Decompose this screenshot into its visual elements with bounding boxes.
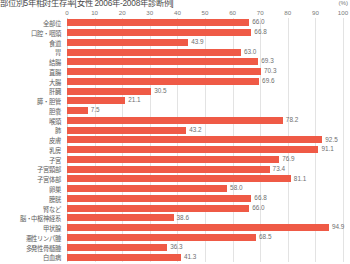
bar	[67, 68, 261, 75]
category-label: 肝臓	[49, 87, 61, 96]
x-tick-label-50: 50	[202, 9, 209, 16]
bar-row: 白血病41.3	[67, 252, 343, 262]
bar-row: 直腸70.3	[67, 67, 343, 77]
bar-row: 腎など66.0	[67, 203, 343, 213]
bar-row: 子宮頸部73.4	[67, 164, 343, 174]
bar-value-label: 92.5	[325, 136, 337, 143]
bar-value-label: 81.1	[294, 175, 306, 182]
x-tick-label-100: 100	[338, 9, 348, 16]
bar-row: 脳・中枢神経系38.6	[67, 213, 343, 223]
bar-value-label: 7.5	[91, 106, 100, 113]
category-label: 結腸	[49, 58, 61, 67]
bar	[67, 107, 88, 114]
category-label: 多発性骨髄腫	[26, 244, 61, 253]
category-label: 口腔・咽頭	[31, 29, 61, 38]
bar-value-label: 66.8	[254, 28, 266, 35]
bar-row: 肺43.2	[67, 125, 343, 135]
bar	[67, 88, 151, 95]
bar-row: 口腔・咽頭66.8	[67, 28, 343, 38]
bar-value-label: 70.3	[264, 67, 276, 74]
survival-rate-bar-chart: 部位別5年相対生存率[女性 2006年-2008年診断例] (%) 010203…	[0, 0, 350, 264]
category-label: 膀胱	[49, 195, 61, 204]
category-label: 大腸	[49, 78, 61, 87]
bar-row: 胆嚢7.5	[67, 106, 343, 116]
bar-value-label: 43.2	[189, 126, 201, 133]
x-tick-label-10: 10	[91, 9, 98, 16]
bar	[67, 234, 256, 241]
bar-row: 胃63.0	[67, 47, 343, 57]
bar-value-label: 63.0	[244, 48, 256, 55]
bar-row: 悪性リンパ腫68.5	[67, 233, 343, 243]
bar-value-label: 66.8	[254, 194, 266, 201]
bar-value-label: 41.3	[184, 253, 196, 260]
bar	[67, 19, 249, 26]
category-label: 腎など	[43, 205, 61, 214]
bar-value-label: 43.9	[191, 38, 203, 45]
bar-row: 甲状腺94.9	[67, 223, 343, 233]
bar	[67, 29, 251, 36]
bar	[67, 146, 318, 153]
category-label: 子宮	[49, 156, 61, 165]
bar	[67, 49, 241, 56]
bar-row: 卵巣58.0	[67, 184, 343, 194]
bar-value-label: 66.0	[252, 204, 264, 211]
category-label: 乳房	[49, 146, 61, 155]
category-label: 胃	[55, 48, 61, 57]
bar-value-label: 58.0	[230, 184, 242, 191]
axis-unit-label: (%)	[338, 0, 348, 6]
category-label: 食道	[49, 39, 61, 48]
category-label: 子宮体部	[37, 175, 61, 184]
x-tick-label-40: 40	[174, 9, 181, 16]
bar-value-label: 91.1	[321, 145, 333, 152]
bar	[67, 166, 270, 173]
bar	[67, 175, 291, 182]
category-label: 脳・中枢神経系	[20, 214, 61, 223]
bar	[67, 156, 279, 163]
bar-value-label: 66.0	[252, 18, 264, 25]
bar	[67, 136, 322, 143]
x-tick-label-90: 90	[312, 9, 319, 16]
bar-row: 子宮体部81.1	[67, 174, 343, 184]
x-tick-label-30: 30	[146, 9, 153, 16]
bar-row: 皮膚92.5	[67, 135, 343, 145]
bar-row: 喉頭78.2	[67, 116, 343, 126]
bar	[67, 254, 181, 261]
bar-value-label: 76.9	[282, 155, 294, 162]
bar	[67, 195, 251, 202]
category-label: 膵・胆管	[37, 97, 61, 106]
bar-value-label: 30.5	[154, 87, 166, 94]
bar	[67, 58, 258, 65]
bar-row: 多発性骨髄腫36.3	[67, 242, 343, 252]
category-label: 胆嚢	[49, 107, 61, 116]
x-tick-label-0: 0	[65, 9, 68, 16]
category-label: 皮膚	[49, 136, 61, 145]
category-label: 甲状腺	[43, 224, 61, 233]
bar-row: 全部位66.0	[67, 18, 343, 28]
bar-rows: 全部位66.0口腔・咽頭66.8食道43.9胃63.0結腸69.3直腸70.3大…	[67, 18, 343, 262]
category-label: 直腸	[49, 68, 61, 77]
category-label: 喉頭	[49, 117, 61, 126]
bar-value-label: 69.3	[261, 57, 273, 64]
bar-row: 大腸69.6	[67, 77, 343, 87]
bar-row: 結腸69.3	[67, 57, 343, 67]
bar	[67, 224, 329, 231]
x-tick-label-80: 80	[284, 9, 291, 16]
bar-row: 子宮76.9	[67, 155, 343, 165]
x-axis-tick-labels: 0102030405060708090100	[67, 9, 343, 18]
plot-area: 全部位66.0口腔・咽頭66.8食道43.9胃63.0結腸69.3直腸70.3大…	[67, 18, 343, 262]
bar-row: 乳房91.1	[67, 145, 343, 155]
category-label: 白血病	[43, 253, 61, 262]
category-label: 全部位	[43, 19, 61, 28]
x-tick-label-70: 70	[257, 9, 264, 16]
category-label: 卵巣	[49, 185, 61, 194]
bar-value-label: 21.1	[128, 96, 140, 103]
bar-row: 膵・胆管21.1	[67, 96, 343, 106]
bar-value-label: 68.5	[259, 233, 271, 240]
bar	[67, 127, 186, 134]
x-tick-label-20: 20	[119, 9, 126, 16]
bar	[67, 244, 167, 251]
category-label: 子宮頸部	[37, 165, 61, 174]
bar-row: 膀胱66.8	[67, 194, 343, 204]
bar-value-label: 78.2	[286, 116, 298, 123]
bar	[67, 39, 188, 46]
